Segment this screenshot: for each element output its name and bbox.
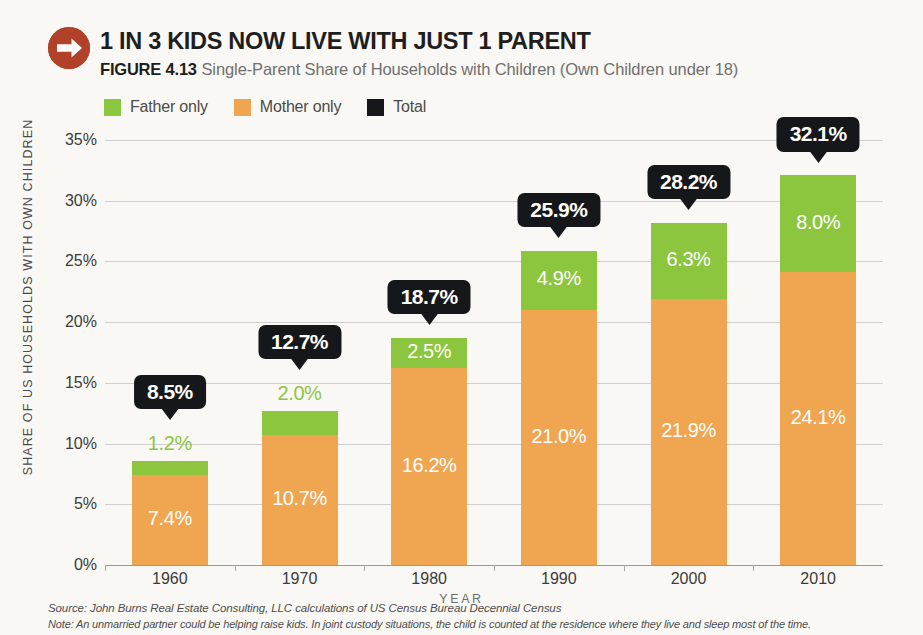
x-axis-tick-label-1960: 1960 [152, 570, 188, 588]
arrow-right-circle-icon [48, 27, 90, 69]
bar-segment-father-only-2000[interactable]: 6.3% [651, 223, 727, 300]
bar-segment-mother-only-2000[interactable]: 21.9% [651, 299, 727, 565]
legend-label-total: Total [393, 98, 426, 116]
bar-value-label-mother-only-2010: 24.1% [780, 406, 856, 429]
bar-value-label-mother-only-2000: 21.9% [651, 419, 727, 442]
chart-footnotes: Source: John Burns Real Estate Consultin… [48, 600, 908, 633]
total-callout-1990[interactable]: 25.9% [517, 193, 600, 228]
total-callout-value-1960: 8.5% [134, 375, 206, 410]
callout-pointer [550, 226, 568, 238]
bar-value-label-mother-only-1990: 21.0% [521, 425, 597, 448]
bar-value-label-father-only-2000: 6.3% [651, 248, 727, 271]
total-callout-2010[interactable]: 32.1% [777, 117, 860, 152]
y-axis-tick-labels: 0%5%10%15%20%25%30%35% [41, 140, 97, 565]
y-axis-tick-label: 30% [45, 192, 97, 210]
callout-pointer [161, 408, 179, 420]
bar-segment-father-only-1960[interactable] [132, 461, 208, 476]
legend-swatch-mother-only [234, 99, 251, 116]
figure-subtitle: FIGURE 4.13 Single-Parent Share of House… [100, 60, 738, 80]
x-axis-tick-mark [494, 565, 495, 571]
chart-legend: Father only Mother only Total [104, 98, 426, 116]
bar-segment-mother-only-2010[interactable]: 24.1% [780, 272, 856, 565]
plot-area: 1.2%7.4%8.5%2.0%10.7%12.7%16.2%2.5%18.7%… [105, 140, 883, 565]
x-axis-tick-mark [235, 565, 236, 571]
stacked-bar-chart: SHARE OF US HOUSEHOLDS WITH OWN CHILDREN… [0, 0, 923, 635]
total-callout-1970[interactable]: 12.7% [258, 325, 341, 360]
bar-segment-mother-only-1960[interactable]: 7.4% [132, 475, 208, 565]
callout-pointer [809, 151, 827, 163]
bar-value-label-mother-only-1970: 10.7% [262, 487, 338, 510]
bar-group-2010[interactable]: 24.1%8.0% [780, 175, 856, 565]
gridline [105, 322, 883, 323]
page-title: 1 IN 3 KIDS NOW LIVE WITH JUST 1 PARENT [100, 28, 591, 55]
callout-pointer [679, 198, 697, 210]
figure-caption: Single-Parent Share of Households with C… [201, 60, 738, 78]
total-callout-1960[interactable]: 8.5% [134, 375, 206, 410]
gridline [105, 261, 883, 262]
x-axis-tick-label-2010: 2010 [800, 570, 836, 588]
chart-header: 1 IN 3 KIDS NOW LIVE WITH JUST 1 PARENT … [0, 0, 923, 92]
total-callout-value-1980: 18.7% [388, 280, 471, 315]
legend-swatch-father-only [104, 99, 121, 116]
x-axis-tick-mark [753, 565, 754, 571]
y-axis-tick-label: 0% [45, 556, 97, 574]
bar-segment-mother-only-1970[interactable]: 10.7% [262, 435, 338, 565]
legend-item-total[interactable]: Total [367, 98, 426, 116]
x-axis-baseline [105, 565, 883, 566]
source-text: Source: John Burns Real Estate Consultin… [48, 600, 908, 617]
callout-pointer [420, 313, 438, 325]
gridline [105, 201, 883, 202]
bar-value-label-mother-only-1980: 16.2% [391, 454, 467, 477]
bar-value-label-father-only-1970: 2.0% [262, 382, 338, 405]
total-callout-2000[interactable]: 28.2% [647, 165, 730, 200]
bar-value-label-father-only-1960: 1.2% [132, 432, 208, 455]
bar-value-label-father-only-2010: 8.0% [780, 211, 856, 234]
gridline [105, 383, 883, 384]
y-axis-tick-label: 20% [45, 313, 97, 331]
y-axis-tick-label: 5% [45, 495, 97, 513]
legend-label-father-only: Father only [130, 98, 208, 116]
total-callout-1980[interactable]: 18.7% [388, 280, 471, 315]
legend-swatch-total [367, 99, 384, 116]
gridline [105, 504, 883, 505]
gridline [105, 140, 883, 141]
bar-value-label-mother-only-1960: 7.4% [132, 507, 208, 530]
y-axis-tick-label: 15% [45, 374, 97, 392]
bar-segment-father-only-1980[interactable]: 2.5% [391, 338, 467, 368]
x-axis-tick-label-1990: 1990 [541, 570, 577, 588]
bar-segment-father-only-2010[interactable]: 8.0% [780, 175, 856, 272]
x-axis-tick-label-1980: 1980 [411, 570, 447, 588]
total-callout-value-2010: 32.1% [777, 117, 860, 152]
bar-segment-mother-only-1980[interactable]: 16.2% [391, 368, 467, 565]
legend-item-father-only[interactable]: Father only [104, 98, 208, 116]
bar-segment-mother-only-1990[interactable]: 21.0% [521, 310, 597, 565]
x-axis-tick-mark [364, 565, 365, 571]
note-text: Note: An unmarried partner could be help… [48, 617, 908, 633]
x-axis-tick-labels: 196019701980199020002010 [105, 570, 883, 594]
total-callout-value-1970: 12.7% [258, 325, 341, 360]
x-axis-tick-label-1970: 1970 [282, 570, 318, 588]
y-axis-tick-label: 10% [45, 435, 97, 453]
y-axis-title: SHARE OF US HOUSEHOLDS WITH OWN CHILDREN [21, 17, 35, 577]
bar-group-1960[interactable]: 7.4% [132, 461, 208, 565]
bar-group-1980[interactable]: 16.2%2.5% [391, 338, 467, 565]
total-callout-value-1990: 25.9% [517, 193, 600, 228]
bar-segment-father-only-1970[interactable] [262, 411, 338, 435]
x-axis-tick-label-2000: 2000 [671, 570, 707, 588]
legend-label-mother-only: Mother only [260, 98, 341, 116]
gridline [105, 444, 883, 445]
bar-value-label-father-only-1980: 2.5% [391, 340, 467, 363]
x-axis-tick-mark [624, 565, 625, 571]
x-axis-tick-mark [105, 565, 106, 571]
bar-group-1970[interactable]: 10.7% [262, 411, 338, 565]
total-callout-value-2000: 28.2% [647, 165, 730, 200]
bar-segment-father-only-1990[interactable]: 4.9% [521, 251, 597, 311]
figure-number: FIGURE 4.13 [100, 60, 197, 78]
y-axis-tick-label: 35% [45, 131, 97, 149]
bar-group-1990[interactable]: 21.0%4.9% [521, 251, 597, 566]
callout-pointer [290, 358, 308, 370]
legend-item-mother-only[interactable]: Mother only [234, 98, 341, 116]
y-axis-tick-label: 25% [45, 252, 97, 270]
bar-group-2000[interactable]: 21.9%6.3% [651, 223, 727, 565]
bar-value-label-father-only-1990: 4.9% [521, 267, 597, 290]
